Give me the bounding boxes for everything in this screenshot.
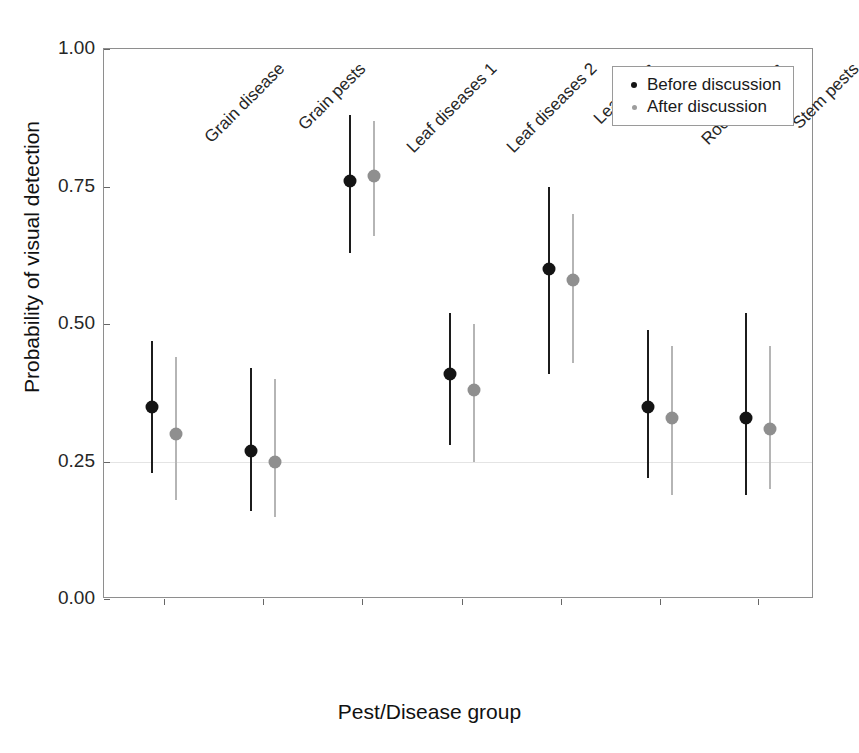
- error-bar: [572, 214, 574, 363]
- chart-legend: Before discussion After discussion: [612, 66, 794, 126]
- legend-label-after: After discussion: [647, 97, 767, 117]
- y-axis-title: Probability of visual detection: [20, 0, 44, 537]
- gridline-0-25: [104, 462, 812, 463]
- data-point: [269, 455, 282, 468]
- data-point: [468, 384, 481, 397]
- data-point: [642, 400, 655, 413]
- plot-panel: Grain diseaseGrain pestsLeaf diseases 1L…: [103, 48, 813, 598]
- y-tick-mark: [104, 599, 110, 600]
- data-point: [764, 422, 777, 435]
- data-point: [344, 175, 357, 188]
- x-tick-mark: [362, 599, 363, 605]
- y-tick-mark: [104, 324, 110, 325]
- x-tick-mark: [561, 599, 562, 605]
- x-tick-label-leaf-diseases-1: Leaf diseases 1: [403, 59, 501, 157]
- legend-item-before: Before discussion: [621, 74, 781, 96]
- error-bar: [745, 313, 747, 495]
- error-bar: [548, 187, 550, 374]
- data-point: [245, 444, 258, 457]
- x-tick-mark: [462, 599, 463, 605]
- y-tick-mark: [104, 462, 110, 463]
- data-point: [740, 411, 753, 424]
- legend-marker-after-icon: [621, 105, 647, 110]
- y-tick-label: 0.50: [58, 312, 95, 334]
- data-point: [170, 428, 183, 441]
- y-tick-label: 0.75: [58, 175, 95, 197]
- x-tick-mark: [660, 599, 661, 605]
- x-axis-title: Pest/Disease group: [0, 700, 859, 724]
- x-tick-label-grain-disease: Grain disease: [201, 59, 289, 147]
- x-tick-label-leaf-diseases-2: Leaf diseases 2: [503, 59, 601, 157]
- data-point: [543, 263, 556, 276]
- y-tick-label: 0.25: [58, 450, 95, 472]
- x-tick-mark: [164, 599, 165, 605]
- data-point: [368, 169, 381, 182]
- legend-label-before: Before discussion: [647, 75, 781, 95]
- data-point: [567, 274, 580, 287]
- data-point: [146, 400, 159, 413]
- legend-item-after: After discussion: [621, 96, 781, 118]
- x-tick-label-grain-pests: Grain pests: [294, 59, 370, 135]
- data-point: [666, 411, 679, 424]
- y-tick-mark: [104, 187, 110, 188]
- y-tick-mark: [104, 49, 110, 50]
- y-tick-label: 1.00: [58, 37, 95, 59]
- x-tick-mark: [263, 599, 264, 605]
- chart-figure: Grain diseaseGrain pestsLeaf diseases 1L…: [0, 0, 859, 753]
- x-tick-mark: [758, 599, 759, 605]
- data-point: [444, 367, 457, 380]
- error-bar: [769, 346, 771, 489]
- y-tick-label: 0.00: [58, 587, 95, 609]
- error-bar: [274, 379, 276, 517]
- error-bar: [250, 368, 252, 511]
- x-tick-label-stem-pests: Stem pests: [789, 59, 859, 133]
- legend-marker-before-icon: [621, 82, 647, 88]
